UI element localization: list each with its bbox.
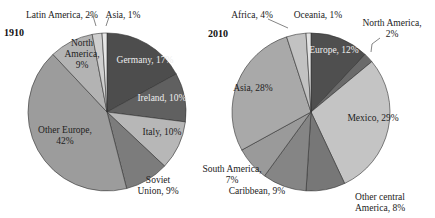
pie-charts-figure: 1910 2010 Germany, 17%Ireland, 10%Italy,… (0, 0, 435, 218)
chart-title-1910: 1910 (4, 27, 24, 38)
slice-label-germany: Germany, 17% (117, 55, 174, 65)
slice-label-north-america: North America,2% (362, 18, 421, 39)
leader-line-africa (268, 19, 288, 28)
slice-label-africa: Africa, 4% (231, 10, 273, 20)
slice-label-italy: Italy, 10% (143, 127, 182, 137)
slice-label-europe: Europe, 12% (309, 45, 359, 55)
slice-label-ireland: Ireland, 10% (137, 93, 186, 103)
slice-label-oceania: Oceania, 1% (294, 10, 343, 20)
leader-line-north-america (371, 38, 380, 52)
slice-label-caribbean: Caribbean, 9% (229, 186, 286, 196)
slice-label-other-central-america: Other centralAmerica, 8% (355, 192, 405, 213)
slice-label-asia: Asia, 1% (106, 10, 141, 20)
slice-label-asia: Asia, 28% (233, 83, 273, 93)
slice-label-south-america: South America,7% (202, 164, 261, 185)
slice-label-mexico: Mexico, 29% (347, 113, 398, 123)
slice-label-latin-america: Latin America, 2% (26, 10, 98, 20)
chart-title-2010: 2010 (208, 28, 228, 39)
